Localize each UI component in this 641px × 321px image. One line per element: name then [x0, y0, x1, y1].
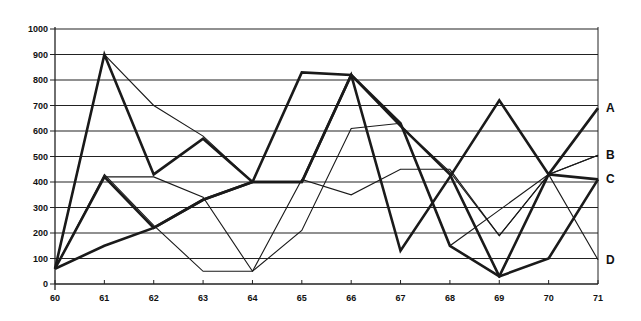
x-tick-label: 63 — [198, 293, 208, 303]
y-tick-label: 800 — [33, 75, 48, 85]
x-tick-label: 66 — [346, 293, 356, 303]
y-tick-label: 100 — [33, 254, 48, 264]
y-tick-label: 700 — [33, 101, 48, 111]
series-line-a — [55, 55, 598, 269]
series-end-labels: ABCD — [606, 101, 615, 267]
x-tick-label: 68 — [445, 293, 455, 303]
axes — [55, 27, 598, 290]
line-chart: 01002003004005006007008009001000 6061626… — [0, 0, 641, 321]
series-label-b: B — [606, 148, 615, 162]
x-tick-label: 71 — [593, 293, 603, 303]
x-tick-label: 60 — [50, 293, 60, 303]
series-lines — [55, 55, 598, 277]
series-label-c: C — [606, 172, 615, 186]
series-line — [55, 155, 598, 271]
y-tick-label: 600 — [33, 126, 48, 136]
series-line-c — [55, 72, 598, 276]
gridlines — [55, 29, 598, 259]
y-tick-label: 200 — [33, 228, 48, 238]
y-tick-label: 1000 — [28, 24, 48, 34]
x-tick-label: 67 — [396, 293, 406, 303]
series-line-b — [55, 55, 598, 269]
y-tick-label: 500 — [33, 152, 48, 162]
x-tick-label: 62 — [149, 293, 159, 303]
y-tick-label: 300 — [33, 203, 48, 213]
x-tick-label: 64 — [247, 293, 257, 303]
series-label-a: A — [606, 101, 615, 115]
x-tick-label: 70 — [544, 293, 554, 303]
x-tick-label: 69 — [494, 293, 504, 303]
y-tick-label: 0 — [43, 279, 48, 289]
x-tick-label: 61 — [99, 293, 109, 303]
series-label-d: D — [606, 253, 615, 267]
y-tick-label: 900 — [33, 50, 48, 60]
y-axis-ticks: 01002003004005006007008009001000 — [28, 24, 55, 289]
y-tick-label: 400 — [33, 177, 48, 187]
x-tick-label: 65 — [297, 293, 307, 303]
series-line-d — [55, 123, 598, 271]
